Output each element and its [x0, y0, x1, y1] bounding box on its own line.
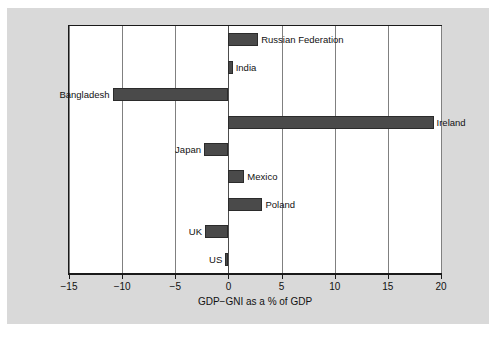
gridline-5 [282, 26, 283, 273]
bar-label: Bangladesh [59, 88, 109, 101]
gridline-15 [388, 26, 389, 273]
bar [228, 116, 433, 129]
bar-label: Mexico [247, 170, 277, 183]
x-tick-10 [335, 274, 336, 279]
gridline-10 [335, 26, 336, 273]
x-tick--10 [122, 274, 123, 279]
x-tick-label: 0 [226, 281, 232, 292]
bar [204, 143, 228, 156]
plot-area: Russian FederationIndiaBangladeshIreland… [68, 25, 442, 274]
gridline--15 [69, 26, 70, 273]
x-axis-title: GDP−GNI as a % of GDP [68, 296, 442, 307]
x-axis-line [68, 274, 442, 275]
x-tick-label: 15 [382, 281, 393, 292]
bar-label: US [209, 253, 222, 266]
x-tick-0 [228, 274, 229, 279]
x-tick-20 [441, 274, 442, 279]
gridline--10 [122, 26, 123, 273]
x-tick-label: 5 [279, 281, 285, 292]
bar-label: Russian Federation [261, 33, 343, 46]
chart-page: Russian FederationIndiaBangladeshIreland… [0, 0, 496, 344]
bar [228, 198, 262, 211]
x-tick-label: −15 [61, 281, 78, 292]
x-tick-15 [388, 274, 389, 279]
gridline-20 [441, 26, 442, 273]
x-tick--5 [175, 274, 176, 279]
x-tick-label: −5 [170, 281, 181, 292]
bar [113, 88, 229, 101]
bar-label: Poland [265, 198, 295, 211]
bar [228, 170, 244, 183]
bar-label: UK [189, 225, 202, 238]
bar-label: Japan [175, 143, 201, 156]
x-tick--15 [69, 274, 70, 279]
x-tick-label: 20 [435, 281, 446, 292]
bar [205, 225, 228, 238]
bar-label: Ireland [437, 116, 466, 129]
bar-label: India [236, 61, 257, 74]
x-tick-label: 10 [329, 281, 340, 292]
x-tick-label: −10 [114, 281, 131, 292]
x-tick-5 [282, 274, 283, 279]
bar [228, 61, 232, 74]
bar [225, 253, 228, 266]
bar [228, 33, 258, 46]
